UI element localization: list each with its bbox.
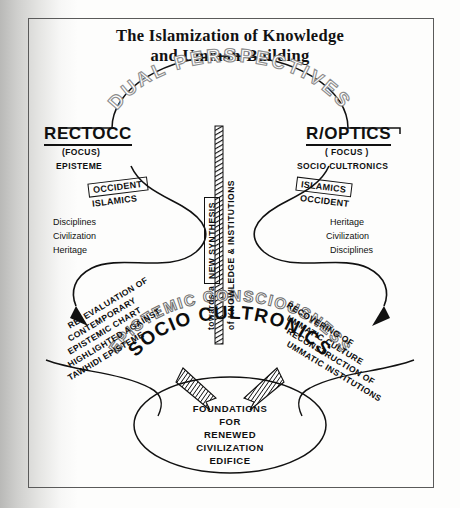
result-line-3: CIVILIZATION xyxy=(150,441,310,454)
scanned-page: The Islamization of Knowledge and Ummah-… xyxy=(0,0,460,508)
left-list-item-1: Civilization xyxy=(53,230,96,244)
right-branch-heading: R/OPTICS xyxy=(306,124,391,146)
right-list-item-1: Civilization xyxy=(326,230,369,244)
result-line-4: EDIFICE xyxy=(150,454,310,467)
right-branch-mode: SOCIO CULTRONICS xyxy=(297,161,388,171)
center-axis-post-label: of KNOWLEDGE & INSTITUTIONS xyxy=(226,180,236,330)
result-line-1: FOR xyxy=(150,415,310,428)
left-list-item-2: Heritage xyxy=(53,244,87,258)
result-oval-text: FOUNDATIONS FOR RENEWED CIVILIZATION EDI… xyxy=(150,402,310,467)
result-line-0: FOUNDATIONS xyxy=(150,402,310,415)
left-branch-mode: EPISTEME xyxy=(56,161,102,171)
left-branch-heading: RECTOCC xyxy=(44,124,132,146)
right-branch-focus: ( FOCUS ) xyxy=(325,147,369,157)
center-axis-boxed-label: NEW SYNTHESIS xyxy=(204,197,220,284)
right-list-item-2: Disciplines xyxy=(330,244,373,258)
dual-perspectives-arc-text: DUAL PERSPECTIVES xyxy=(104,45,356,113)
left-convergence-curve xyxy=(46,360,161,416)
left-list-item-0: Disciplines xyxy=(53,216,96,230)
right-list-item-0: Heritage xyxy=(330,216,364,230)
result-line-2: RENEWED xyxy=(150,428,310,441)
center-axis-pre-label: towards a xyxy=(206,286,216,330)
left-branch-focus: (FOCUS) xyxy=(62,147,100,157)
